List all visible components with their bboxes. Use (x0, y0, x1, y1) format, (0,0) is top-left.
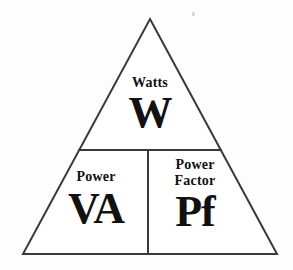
cell-power-factor-label-line1: Power (155, 157, 235, 173)
cell-watts-symbol: W (106, 91, 194, 135)
cell-volt-amperes-label: Power (50, 170, 142, 184)
cell-power-factor-symbol: Pf (155, 190, 235, 234)
cell-volt-amperes: Power VA (50, 170, 142, 231)
cell-watts: Watts W (106, 76, 194, 135)
scan-artifact-speck (192, 12, 195, 16)
cell-volt-amperes-symbol: VA (50, 187, 142, 231)
cell-power-factor: Power Factor Pf (155, 157, 235, 234)
power-triangle-diagram: Watts W Power VA Power Factor Pf (0, 0, 293, 270)
